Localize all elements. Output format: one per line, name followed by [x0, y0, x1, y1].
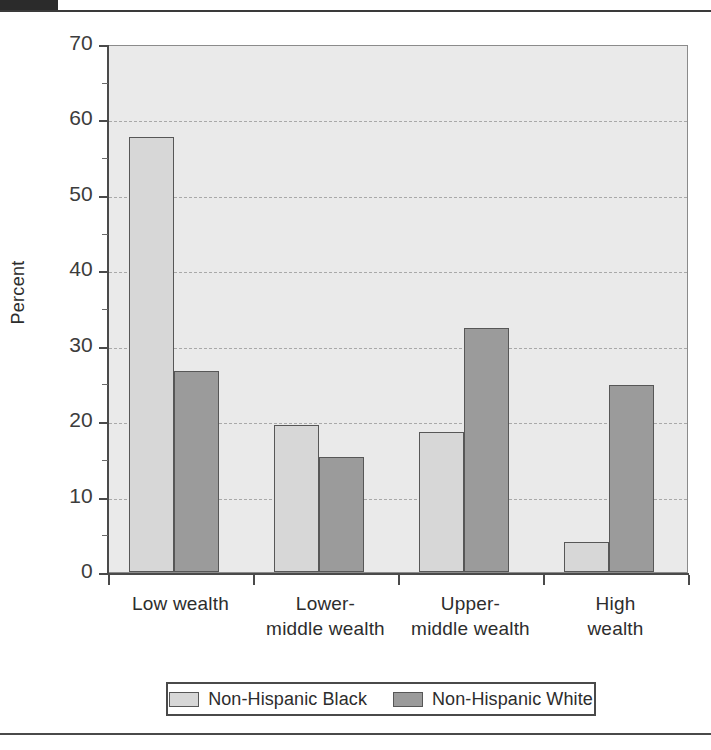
- y-axis-tick-label: 0: [13, 559, 93, 583]
- x-axis-tick: [398, 575, 400, 585]
- top-divider-rule: [0, 10, 711, 12]
- x-axis-category-label-line: High: [543, 591, 688, 616]
- gridline: [109, 197, 687, 198]
- x-axis-category-label-line: Upper-: [398, 591, 543, 616]
- chart-legend: Non-Hispanic BlackNon-Hispanic White: [166, 682, 596, 716]
- y-axis-tick: [99, 498, 108, 500]
- legend-entry[interactable]: Non-Hispanic White: [393, 689, 593, 710]
- bar: [174, 371, 219, 572]
- plot-inner: [109, 46, 687, 572]
- bar: [129, 137, 174, 572]
- x-axis-tick: [543, 575, 545, 585]
- gridline: [109, 121, 687, 122]
- bar-chart-figure: 706050403020100 Percent Low wealthLower-…: [0, 14, 711, 714]
- y-axis-tick: [99, 271, 108, 273]
- legend-entry[interactable]: Non-Hispanic Black: [169, 689, 367, 710]
- y-axis-tick-label: 50: [13, 182, 93, 206]
- gridline: [109, 348, 687, 349]
- gridline: [109, 272, 687, 273]
- y-axis-line: [107, 45, 109, 575]
- y-axis-tick-label: 20: [13, 408, 93, 432]
- legend-swatch-light: [169, 692, 199, 707]
- x-axis-tick: [688, 575, 690, 585]
- legend-swatch-dark: [393, 692, 423, 707]
- y-axis-minor-tick: [102, 309, 108, 310]
- x-axis-category-label: Lower-middle wealth: [253, 591, 398, 641]
- bar: [419, 432, 464, 572]
- bar: [564, 542, 609, 572]
- x-axis-category-label: Upper-middle wealth: [398, 591, 543, 641]
- bar: [274, 425, 319, 572]
- y-axis-tick: [99, 196, 108, 198]
- legend-label: Non-Hispanic White: [432, 689, 593, 710]
- y-axis-minor-tick: [102, 384, 108, 385]
- x-axis-tick: [108, 575, 110, 585]
- y-axis-title: Percent: [8, 223, 29, 363]
- y-axis-tick-labels: 706050403020100: [5, 14, 93, 714]
- x-axis-category-label-line: Lower-: [253, 591, 398, 616]
- y-axis-minor-tick: [102, 83, 108, 84]
- x-axis-category-label-line: Low wealth: [108, 591, 253, 616]
- y-axis-tick-label: 10: [13, 484, 93, 508]
- y-axis-tick-label: 60: [13, 106, 93, 130]
- plot-area: [108, 45, 688, 573]
- x-axis-category-label: Highwealth: [543, 591, 688, 641]
- y-axis-minor-tick: [102, 234, 108, 235]
- y-axis-tick: [99, 422, 108, 424]
- x-axis-category-label-line: middle wealth: [253, 616, 398, 641]
- y-axis-minor-tick: [102, 535, 108, 536]
- bar: [464, 328, 509, 572]
- y-axis-minor-tick: [102, 460, 108, 461]
- bottom-divider-rule: [0, 733, 711, 735]
- y-axis-tick: [99, 45, 108, 47]
- y-axis-tick-label: 70: [13, 31, 93, 55]
- bar: [319, 457, 364, 572]
- y-axis-minor-tick: [102, 158, 108, 159]
- x-axis-category-label-line: middle wealth: [398, 616, 543, 641]
- x-axis-category-label: Low wealth: [108, 591, 253, 616]
- bar: [609, 385, 654, 572]
- y-axis-tick: [99, 347, 108, 349]
- x-axis-tick: [253, 575, 255, 585]
- x-axis-category-label-line: wealth: [543, 616, 688, 641]
- legend-label: Non-Hispanic Black: [208, 689, 367, 710]
- y-axis-tick: [99, 120, 108, 122]
